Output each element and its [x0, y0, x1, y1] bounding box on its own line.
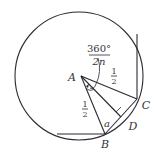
point-c-label: C	[142, 99, 151, 112]
point-a-label: A	[67, 71, 76, 84]
angle-denominator: 2n	[92, 56, 106, 67]
half-left-numerator: 1	[82, 100, 87, 109]
angle-arrowhead	[86, 84, 89, 88]
point-b-label: B	[100, 138, 109, 151]
angle-numerator: 360°	[87, 43, 111, 54]
half-top-denominator: 2	[111, 77, 116, 86]
half-top-numerator: 1	[111, 67, 116, 76]
inscribed-polygon-diagram: 360° 2n 1 2 1 2 a A B C D	[0, 0, 165, 153]
circumcircle	[15, 12, 143, 140]
half-left-denominator: 2	[82, 110, 87, 119]
apothem-label: a	[104, 118, 110, 129]
point-d-label: D	[128, 120, 138, 133]
